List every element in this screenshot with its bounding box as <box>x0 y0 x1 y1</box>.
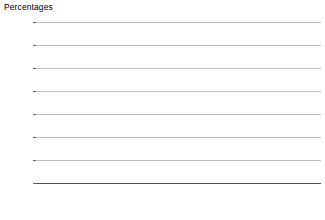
y-axis-tick-mark <box>33 160 36 161</box>
gridline <box>36 68 321 69</box>
y-axis-tick-mark <box>33 114 36 115</box>
gridline <box>36 160 321 161</box>
chart-title: Percentages <box>4 2 53 13</box>
gridline <box>36 114 321 115</box>
chart-container: Percentages 05101520253035 <box>0 0 325 220</box>
y-axis-tick-mark <box>33 183 36 184</box>
y-axis-tick-mark <box>33 22 36 23</box>
plot-area <box>36 22 321 183</box>
y-axis-tick-mark <box>33 137 36 138</box>
y-axis-tick-mark <box>33 91 36 92</box>
gridline <box>36 22 321 23</box>
gridline <box>36 137 321 138</box>
gridline <box>36 91 321 92</box>
y-axis-tick-mark <box>33 68 36 69</box>
gridline <box>36 45 321 46</box>
axis-baseline <box>36 183 321 184</box>
y-axis-tick-mark <box>33 45 36 46</box>
